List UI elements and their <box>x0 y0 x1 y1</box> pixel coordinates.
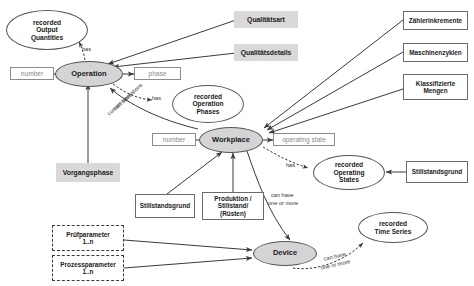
edge-label-has-operating-states: has <box>286 162 295 169</box>
diagram-canvas: recorded Output Quantities number Operat… <box>0 0 474 286</box>
attribute-number-operation[interactable]: number <box>10 67 54 80</box>
node-klassifizierte-mengen-line1: Klassifizierte <box>416 80 455 87</box>
node-stillstandsgrund-right[interactable]: Stillstandsgrund <box>406 161 468 183</box>
recorded-output-quantities-line2: Output <box>36 26 58 33</box>
node-pruefparameter[interactable]: Prüfparameter 1..n <box>52 225 124 251</box>
node-maschinenzyklen[interactable]: Maschinenzyklen <box>403 43 468 62</box>
edge-maschinenzyklen-workplace <box>267 52 403 130</box>
node-prozessparameter-line1: Prozessparameter <box>60 261 115 268</box>
edge-klassifizierte-mengen-workplace <box>269 89 403 133</box>
node-prozessparameter[interactable]: Prozessparameter 1..n <box>52 255 124 281</box>
edge-zaehlerinkremente-workplace <box>264 20 403 128</box>
node-recorded-operation-phases[interactable]: recorded Operation Phases <box>172 85 244 123</box>
node-produktion-line1: Produktion / <box>214 195 251 202</box>
node-klassifizierte-mengen-line2: Mengen <box>423 87 447 94</box>
node-produktion-line3: (Rüsten) <box>220 210 246 217</box>
node-produktion-stillstand-ruesten[interactable]: Produktion / Stillstand/ (Rüsten) <box>202 192 264 220</box>
node-zaehlerinkremente[interactable]: Zählerinkremente <box>403 11 468 30</box>
node-maschinenzyklen-label: Maschinenzyklen <box>409 49 462 56</box>
node-qualitaetsdetails[interactable]: Qualitätsdetails <box>234 44 298 61</box>
edge-prozessparameter-device <box>124 258 252 268</box>
node-klassifizierte-mengen[interactable]: Klassifizierte Mengen <box>403 74 468 100</box>
recorded-operating-states-line2: Operating <box>333 169 364 176</box>
node-qualitaetsart-label: Qualitätsart <box>247 16 285 24</box>
attribute-phase[interactable]: phase <box>134 67 181 80</box>
node-produktion-line2: Stillstand/ <box>218 202 249 209</box>
node-zaehlerinkremente-label: Zählerinkremente <box>409 17 462 24</box>
recorded-time-series-line1: recorded <box>379 220 407 227</box>
node-pruefparameter-line2: 1..n <box>82 238 93 245</box>
recorded-operation-phases-line1: recorded <box>194 93 222 100</box>
node-vorgangsphase[interactable]: Vorgangsphase <box>56 163 120 182</box>
attribute-number-operation-label: number <box>21 70 43 77</box>
edge-qualitaetsdetails-operation <box>113 53 236 67</box>
recorded-output-quantities-line1: recorded <box>33 19 61 26</box>
node-pruefparameter-line1: Prüfparameter <box>66 231 110 238</box>
node-recorded-time-series[interactable]: recorded Time Series <box>358 212 428 243</box>
edge-qualitaetsart-operation <box>108 20 236 64</box>
edge-label-can-have-devices-line2: one or more <box>268 200 298 207</box>
node-recorded-output-quantities[interactable]: recorded Output Quantities <box>6 10 88 50</box>
edge-stillstandsgrund-mid-workplace <box>167 152 222 194</box>
node-device-label: Device <box>273 249 297 257</box>
node-device[interactable]: Device <box>253 241 317 266</box>
node-workplace-label: Workplace <box>212 136 250 144</box>
node-operation[interactable]: Operation <box>55 61 123 87</box>
recorded-time-series-line2: Time Series <box>375 228 412 235</box>
attribute-number-workplace[interactable]: number <box>152 133 196 146</box>
recorded-output-quantities-line3: Quantities <box>31 34 63 41</box>
node-vorgangsphase-label: Vorgangsphase <box>63 169 114 177</box>
attribute-operating-state[interactable]: operating state <box>273 133 335 146</box>
node-qualitaetsart[interactable]: Qualitätsart <box>234 11 298 28</box>
recorded-operation-phases-line3: Phases <box>196 108 219 115</box>
edge-label-has-operation-phases: has <box>152 95 161 102</box>
attribute-number-workplace-label: number <box>163 136 185 143</box>
node-recorded-operating-states[interactable]: recorded Operating States <box>313 155 385 190</box>
node-stillstandsgrund-mid-label: Stillstandsgrund <box>140 202 190 209</box>
edge-pruefparameter-device <box>124 240 252 250</box>
node-stillstandsgrund-mid[interactable]: Stillstandsgrund <box>135 194 195 218</box>
attribute-phase-label: phase <box>149 70 167 77</box>
node-operation-label: Operation <box>71 70 106 78</box>
node-prozessparameter-line2: 1..n <box>82 268 93 275</box>
edge-label-can-have-devices-line1: can have <box>271 192 294 199</box>
node-qualitaetsdetails-label: Qualitätsdetails <box>241 49 292 57</box>
edge-label-has-output-quantities: has <box>82 46 91 53</box>
node-workplace[interactable]: Workplace <box>199 127 263 153</box>
attribute-operating-state-label: operating state <box>282 136 326 143</box>
recorded-operating-states-line3: States <box>339 176 359 183</box>
node-stillstandsgrund-right-label: Stillstandsgrund <box>412 168 462 175</box>
edge-label-can-have-current-operations-line2: current operations <box>106 82 144 117</box>
recorded-operating-states-line1: recorded <box>335 161 363 168</box>
recorded-operation-phases-line2: Operation <box>192 100 223 107</box>
